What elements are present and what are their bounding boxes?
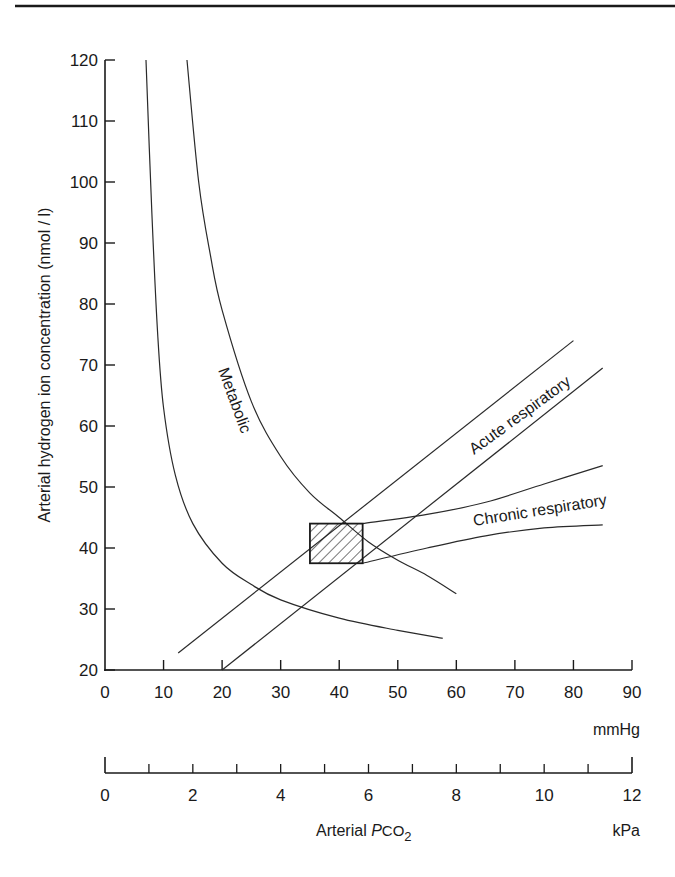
x-tick-label: 80	[564, 683, 583, 702]
series-line-3	[222, 368, 603, 670]
kPa-tick-label: 0	[100, 786, 109, 805]
label-chronic-respiratory: Chronic respiratory	[472, 491, 608, 529]
x-tick-label: 30	[271, 683, 290, 702]
series-line-1	[187, 60, 456, 594]
y-tick-label: 70	[79, 356, 98, 375]
label-acute-respiratory: Acute respiratory	[466, 373, 574, 458]
label-metabolic: Metabolic	[215, 365, 254, 435]
x-unit-mmHg: mmHg	[593, 721, 640, 738]
x-axis-title: Arterial PCO2	[316, 822, 412, 844]
y-tick-label: 90	[79, 234, 98, 253]
kPa-tick-label: 4	[276, 786, 285, 805]
kPa-tick-label: 10	[535, 786, 554, 805]
y-tick-label: 20	[79, 661, 98, 680]
y-axis-title: Arterial hydrogen ion concentration (nmo…	[36, 208, 53, 523]
kPa-tick-label: 8	[452, 786, 461, 805]
x-unit-kPa: kPa	[612, 822, 640, 839]
kPa-tick-label: 12	[623, 786, 642, 805]
x-tick-label: 20	[213, 683, 232, 702]
acid-base-chart: 2030405060708090100110120 Arterial hydro…	[0, 0, 675, 877]
kPa-tick-label: 2	[188, 786, 197, 805]
x-tick-label: 60	[447, 683, 466, 702]
y-tick-label: 50	[79, 478, 98, 497]
x-tick-label: 10	[154, 683, 173, 702]
x-tick-label: 0	[100, 683, 109, 702]
series-line-0	[146, 60, 443, 638]
y-tick-label: 120	[70, 51, 98, 70]
x-tick-label: 40	[330, 683, 349, 702]
y-tick-label: 80	[79, 295, 98, 314]
series-group	[146, 60, 603, 670]
y-tick-label: 40	[79, 539, 98, 558]
x-tick-label: 50	[388, 683, 407, 702]
y-tick-label: 30	[79, 600, 98, 619]
y-tick-label: 60	[79, 417, 98, 436]
kPa-tick-label: 6	[364, 786, 373, 805]
y-tick-label: 110	[71, 112, 98, 131]
x-tick-label: 70	[505, 683, 524, 702]
x-axis-mmHg: 0102030405060708090	[100, 660, 641, 702]
y-tick-label: 100	[70, 173, 98, 192]
x-axis-kPa: 024681012	[100, 757, 641, 805]
y-axis: 2030405060708090100110120	[70, 51, 115, 680]
x-tick-label: 90	[623, 683, 642, 702]
normal-range-box	[310, 524, 363, 564]
